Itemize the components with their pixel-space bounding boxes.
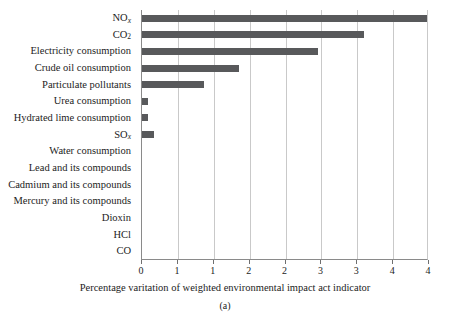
x-tick-label: 1 bbox=[201, 265, 225, 276]
category-label-text: Electricity consumption bbox=[30, 46, 131, 57]
x-tick-label: 2 bbox=[273, 265, 297, 276]
bar-row bbox=[142, 93, 427, 110]
category-label: Mercury and its compounds bbox=[0, 193, 136, 210]
x-tick-mark bbox=[141, 260, 142, 264]
category-label-text: NO bbox=[112, 13, 127, 24]
category-label-text: CO bbox=[116, 246, 131, 257]
bar bbox=[142, 15, 427, 22]
x-axis-title: Percentage varitation of weighted enviro… bbox=[0, 282, 450, 293]
category-label-text: Crude oil consumption bbox=[35, 63, 131, 74]
bar bbox=[142, 114, 148, 121]
category-label: Particulate pollutants bbox=[0, 77, 136, 94]
category-label: NOx bbox=[0, 10, 136, 27]
bar-row bbox=[142, 242, 427, 259]
category-label: Dioxin bbox=[0, 210, 136, 227]
category-label-text: Hydrated lime consumption bbox=[14, 113, 131, 124]
plot-area bbox=[141, 10, 428, 260]
bar-row bbox=[142, 60, 427, 77]
x-tick-label: 0 bbox=[129, 265, 153, 276]
category-label-text: Lead and its compounds bbox=[29, 163, 131, 174]
category-label: Crude oil consumption bbox=[0, 60, 136, 77]
bar bbox=[142, 81, 204, 88]
category-label: CO bbox=[0, 243, 136, 260]
x-tick-mark bbox=[428, 260, 429, 264]
category-axis-labels: NOxCO2Electricity consumptionCrude oil c… bbox=[0, 10, 136, 260]
category-label-text: Particulate pollutants bbox=[42, 80, 131, 91]
category-label-text: Water consumption bbox=[49, 146, 131, 157]
category-label: Cadmium and its compounds bbox=[0, 177, 136, 194]
x-tick-label: 4 bbox=[380, 265, 404, 276]
category-label-text: SO bbox=[114, 130, 127, 141]
x-tick-label: 1 bbox=[165, 265, 189, 276]
bar bbox=[142, 31, 364, 38]
bar bbox=[142, 131, 154, 138]
x-tick-label: 3 bbox=[344, 265, 368, 276]
category-label: CO2 bbox=[0, 27, 136, 44]
bar-row bbox=[142, 143, 427, 160]
x-tick-mark bbox=[320, 260, 321, 264]
category-label: Electricity consumption bbox=[0, 43, 136, 60]
category-label-subscript: x bbox=[128, 133, 131, 141]
category-label-subscript: x bbox=[128, 17, 131, 25]
x-tick-label: 4 bbox=[416, 265, 440, 276]
category-label: Hydrated lime consumption bbox=[0, 110, 136, 127]
x-tick-mark bbox=[249, 260, 250, 264]
bar-row bbox=[142, 126, 427, 143]
bar-series bbox=[142, 10, 427, 259]
x-tick-label: 3 bbox=[308, 265, 332, 276]
category-label-text: Mercury and its compounds bbox=[13, 196, 131, 207]
bar-row bbox=[142, 193, 427, 210]
figure-caption: (a) bbox=[0, 300, 450, 311]
bar bbox=[142, 48, 318, 55]
category-label-subscript: 2 bbox=[127, 33, 131, 41]
bar-row bbox=[142, 10, 427, 27]
bar-row bbox=[142, 159, 427, 176]
figure-panel-a: NOxCO2Electricity consumptionCrude oil c… bbox=[0, 0, 450, 321]
bar bbox=[142, 65, 239, 72]
x-tick-mark bbox=[356, 260, 357, 264]
x-tick-mark bbox=[177, 260, 178, 264]
bar-row bbox=[142, 176, 427, 193]
category-label: Lead and its compounds bbox=[0, 160, 136, 177]
x-tick-mark bbox=[213, 260, 214, 264]
category-label: SOx bbox=[0, 127, 136, 144]
category-label-text: HCl bbox=[113, 230, 131, 241]
bar-row bbox=[142, 43, 427, 60]
x-tick-mark bbox=[392, 260, 393, 264]
bar-row bbox=[142, 76, 427, 93]
bar-row bbox=[142, 209, 427, 226]
bar bbox=[142, 98, 148, 105]
x-tick-mark bbox=[285, 260, 286, 264]
bar-row bbox=[142, 27, 427, 44]
x-tick-label: 2 bbox=[237, 265, 261, 276]
bar-row bbox=[142, 110, 427, 127]
category-label-text: Dioxin bbox=[102, 213, 131, 224]
bar-row bbox=[142, 226, 427, 243]
category-label-text: Urea consumption bbox=[54, 96, 131, 107]
category-label: HCl bbox=[0, 227, 136, 244]
category-label: Water consumption bbox=[0, 143, 136, 160]
category-label-text: CO bbox=[113, 30, 128, 41]
category-label: Urea consumption bbox=[0, 93, 136, 110]
category-label-text: Cadmium and its compounds bbox=[8, 180, 131, 191]
